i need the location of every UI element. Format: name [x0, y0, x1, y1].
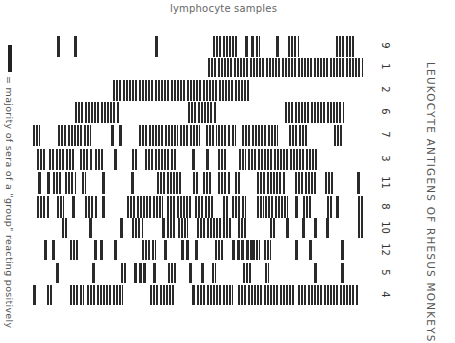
reaction-bar — [246, 240, 249, 260]
reaction-bar — [102, 196, 105, 218]
reaction-bar — [80, 149, 93, 170]
reaction-bar — [270, 218, 276, 238]
reaction-bar — [57, 196, 64, 218]
reaction-bar — [302, 218, 305, 238]
reaction-bar — [237, 240, 240, 260]
reaction-bar — [94, 240, 97, 260]
reaction-bar — [47, 285, 53, 305]
row-label-7: 7 — [380, 125, 391, 145]
reaction-bar — [65, 172, 76, 194]
reaction-bar — [195, 240, 198, 260]
row-label-5: 5 — [380, 263, 391, 283]
reaction-bar — [87, 285, 123, 305]
reaction-bar — [66, 149, 76, 170]
reaction-bar — [232, 240, 235, 260]
reaction-bar — [37, 196, 49, 218]
reaction-bar — [286, 218, 289, 238]
reaction-bar — [208, 58, 363, 77]
reaction-bar — [127, 196, 158, 218]
reaction-bar — [33, 285, 36, 305]
reaction-bar — [89, 218, 92, 238]
reaction-bar — [276, 36, 279, 57]
reaction-bar — [134, 263, 137, 283]
reaction-bar — [85, 196, 98, 218]
reaction-bar — [358, 218, 363, 238]
reaction-bar — [358, 196, 364, 218]
reaction-bar — [218, 125, 230, 146]
reaction-bar — [132, 149, 138, 170]
reaction-bar — [285, 102, 344, 123]
reaction-bar — [256, 36, 260, 57]
reaction-bar — [336, 196, 339, 218]
reaction-bar — [92, 263, 95, 283]
row-label-10: 10 — [380, 218, 391, 238]
reaction-bar — [155, 36, 158, 57]
reaction-bar — [243, 263, 253, 283]
reaction-bar — [132, 218, 143, 238]
reaction-bar — [232, 196, 246, 218]
reaction-bar — [295, 196, 298, 218]
reaction-bar — [164, 240, 167, 260]
reaction-bar — [265, 263, 269, 283]
reaction-bar — [257, 172, 286, 194]
row-label-2: 2 — [380, 80, 391, 100]
reaction-bar — [114, 149, 117, 170]
reaction-bar — [334, 125, 344, 146]
reaction-bar — [142, 240, 156, 260]
reaction-bar — [38, 172, 41, 194]
reaction-bar — [197, 218, 231, 238]
reaction-bar — [184, 218, 188, 238]
reaction-bar — [145, 149, 176, 170]
reaction-bar — [357, 172, 360, 194]
reaction-bar — [157, 172, 181, 194]
reaction-bar — [72, 196, 75, 218]
reaction-bar — [223, 196, 229, 218]
reaction-bar — [111, 125, 114, 146]
reaction-bar — [58, 125, 91, 146]
reaction-bar — [206, 125, 217, 146]
reaction-bar — [52, 240, 55, 260]
reaction-bar — [295, 172, 316, 194]
reaction-bar — [53, 172, 63, 194]
reaction-bar — [289, 125, 308, 146]
reaction-bar — [37, 149, 46, 170]
reaction-bar — [197, 285, 233, 305]
reaction-bar — [192, 285, 195, 305]
reaction-bar — [150, 285, 176, 305]
reaction-bar — [341, 240, 344, 260]
reaction-bar — [192, 149, 195, 170]
reaction-bar — [239, 149, 246, 170]
reaction-bar — [264, 240, 271, 260]
reaction-bar — [326, 218, 329, 238]
reaction-bar — [57, 36, 60, 57]
reaction-bar — [62, 218, 68, 238]
reaction-bar — [70, 240, 79, 260]
reaction-bar — [139, 125, 178, 146]
reaction-bar — [188, 102, 217, 123]
reaction-bar — [325, 172, 333, 194]
reaction-bar — [74, 36, 77, 57]
reaction-bar — [153, 263, 156, 283]
reaction-bar — [56, 263, 59, 283]
reaction-bar — [235, 172, 241, 194]
reaction-bar — [100, 240, 103, 260]
reaction-bar — [314, 218, 317, 238]
reaction-bar — [70, 285, 84, 305]
reaction-bar — [238, 285, 296, 305]
reaction-bar — [47, 172, 50, 194]
reaction-bar — [75, 102, 120, 123]
row-label-8: 8 — [380, 197, 391, 217]
reaction-bar — [195, 196, 214, 218]
reaction-bar — [162, 218, 165, 238]
reaction-bar — [242, 125, 278, 146]
reaction-bar — [212, 263, 216, 283]
reaction-bar — [119, 125, 122, 146]
reaction-bar — [215, 240, 223, 260]
reaction-bar — [203, 172, 213, 194]
reaction-bar — [327, 196, 333, 218]
reaction-bar — [178, 218, 183, 238]
reaction-bar — [121, 263, 126, 283]
reaction-bar — [206, 149, 209, 170]
reaction-bar — [159, 196, 163, 218]
reaction-bar — [232, 125, 236, 146]
